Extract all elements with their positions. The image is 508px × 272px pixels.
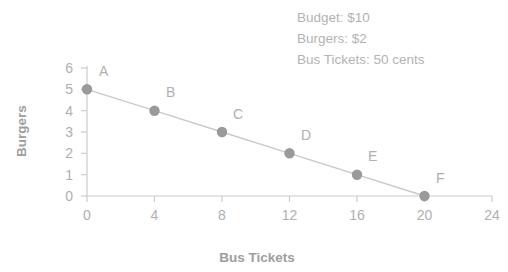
y-tick-label-6: 6 [65,60,73,76]
x-tick-label-0: 0 [83,207,91,223]
x-tick-label-8: 8 [218,207,226,223]
chart-page: 6 5 4 3 2 1 0 0 4 8 12 16 20 24 A B C D … [0,0,508,272]
data-point-c [217,127,227,137]
data-point-e [352,170,362,180]
annotation-bus-tickets-price: Bus Tickets: 50 cents [297,52,425,67]
x-tick-label-20: 20 [417,207,433,223]
y-tick-label-4: 4 [65,103,73,119]
chart-background [0,0,508,272]
annotation-budget: Budget: $10 [297,10,370,25]
x-tick-label-4: 4 [151,207,159,223]
x-axis-title: Bus Tickets [219,250,295,265]
data-point-d [284,148,294,158]
y-tick-label-0: 0 [65,188,73,204]
data-point-label-f: F [436,170,445,186]
data-point-label-e: E [368,148,377,164]
y-tick-label-1: 1 [65,167,73,183]
x-tick-label-24: 24 [484,207,500,223]
data-point-label-a: A [99,63,109,79]
x-tick-label-12: 12 [282,207,298,223]
data-point-label-d: D [301,127,311,143]
data-point-f [419,191,429,201]
y-tick-label-3: 3 [65,124,73,140]
data-point-label-b: B [166,84,175,100]
data-point-a [82,84,92,94]
y-axis-title: Burgers [14,105,29,157]
data-point-b [149,106,159,116]
annotation-burgers-price: Burgers: $2 [297,31,367,46]
x-tick-label-16: 16 [349,207,365,223]
budget-constraint-chart: 6 5 4 3 2 1 0 0 4 8 12 16 20 24 A B C D … [0,0,508,272]
y-tick-label-2: 2 [65,145,73,161]
y-tick-label-5: 5 [65,81,73,97]
data-point-label-c: C [233,106,243,122]
